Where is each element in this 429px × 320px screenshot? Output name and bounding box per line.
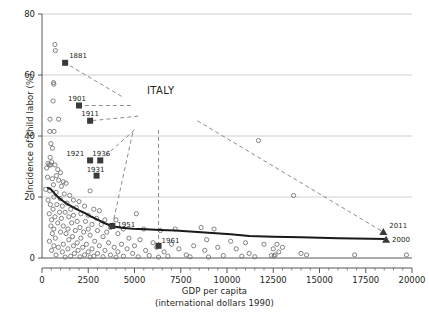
scatter-point xyxy=(177,247,181,251)
scatter-point xyxy=(119,242,123,246)
italy-marker-label-1951: 1951 xyxy=(117,221,135,229)
scatter-point xyxy=(71,213,75,217)
scatter-point xyxy=(53,236,57,240)
scatter-point xyxy=(62,192,66,196)
scatter-point xyxy=(82,230,86,234)
scatter-point xyxy=(54,253,58,257)
x-tick-label-5000: 5000 xyxy=(124,275,146,285)
x-tick-label-20000: 20000 xyxy=(398,275,425,285)
scatter-point xyxy=(58,171,62,175)
scatter-point xyxy=(50,218,54,222)
italy-marker-1911 xyxy=(87,118,93,124)
scatter-point xyxy=(95,228,99,232)
scatter-point xyxy=(304,253,308,257)
scatter-point xyxy=(107,241,111,245)
scatter-point xyxy=(243,241,247,245)
scatter-point xyxy=(52,227,56,231)
scatter-point xyxy=(72,251,76,255)
trend-line xyxy=(48,188,386,239)
scatter-point xyxy=(103,218,107,222)
italy-marker-label-1911: 1911 xyxy=(81,110,99,118)
italy-marker-label-2011: 2011 xyxy=(389,222,407,230)
scatter-point xyxy=(60,204,64,208)
scatter-point xyxy=(57,178,61,182)
scatter-point xyxy=(51,183,55,187)
scatter-point xyxy=(86,250,90,254)
chart-figure: 0204060800250050007500100001250015000175… xyxy=(0,0,429,320)
scatter-point xyxy=(88,189,92,193)
italy-marker-2011 xyxy=(379,228,387,235)
scatter-point xyxy=(112,245,116,249)
scatter-point xyxy=(45,175,49,179)
scatter-point xyxy=(55,203,59,207)
scatter-point xyxy=(52,244,56,248)
scatter-point xyxy=(77,199,81,203)
scatter-point xyxy=(53,49,57,53)
x-axis-label: GDP per capita xyxy=(0,286,429,296)
scatter-point xyxy=(138,238,142,242)
leader-line-6 xyxy=(197,121,383,232)
italy-marker-label-1961: 1961 xyxy=(162,237,180,245)
scatter-point xyxy=(125,247,129,251)
scatter-point xyxy=(66,227,70,231)
scatter-point xyxy=(116,250,120,254)
scatter-point xyxy=(131,251,135,255)
scatter-point xyxy=(50,146,54,150)
y-axis-label: Incidence of child labor (%) xyxy=(25,43,35,223)
scatter-point xyxy=(105,230,109,234)
scatter-point xyxy=(103,248,107,252)
scatter-point xyxy=(134,212,138,216)
x-tick-label-10000: 10000 xyxy=(213,275,240,285)
italy-marker-label-1921: 1921 xyxy=(66,150,84,158)
italy-annotation: ITALY xyxy=(147,85,174,96)
scatter-point xyxy=(203,248,207,252)
scatter-point xyxy=(64,232,68,236)
scatter-point xyxy=(212,227,216,231)
y-tick-label-0: 0 xyxy=(30,253,35,263)
scatter-point xyxy=(82,204,86,208)
scatter-point xyxy=(116,232,120,236)
scatter-point xyxy=(59,216,63,220)
x-tick-label-7500: 7500 xyxy=(170,275,192,285)
scatter-point xyxy=(78,225,82,229)
scatter-point xyxy=(353,253,357,257)
scatter-point xyxy=(262,242,266,246)
scatter-point xyxy=(63,210,67,214)
scatter-point xyxy=(47,239,51,243)
scatter-point xyxy=(271,247,275,251)
scatter-point xyxy=(61,224,65,228)
scatter-point xyxy=(56,221,60,225)
x-tick-label-2500: 2500 xyxy=(77,275,99,285)
scatter-point xyxy=(50,248,54,252)
scatter-point xyxy=(88,233,92,237)
italy-marker-label-2000: 2000 xyxy=(392,236,410,244)
scatter-point xyxy=(216,245,220,249)
scatter-point xyxy=(114,255,118,259)
scatter-point xyxy=(76,248,80,252)
scatter-point xyxy=(45,166,49,170)
scatter-point xyxy=(57,117,61,121)
scatter-point xyxy=(47,212,51,216)
scatter-point xyxy=(132,244,136,248)
x-tick-label-12500: 12500 xyxy=(260,275,287,285)
scatter-point xyxy=(54,174,58,178)
scatter-point xyxy=(93,239,97,243)
scatter-point xyxy=(83,219,87,223)
scatter-point xyxy=(70,221,74,225)
scatter-point xyxy=(221,253,225,257)
scatter-point xyxy=(70,235,74,239)
scatter-point xyxy=(61,242,65,246)
scatter-point xyxy=(90,247,94,251)
scatter-point xyxy=(151,241,155,245)
scatter-point xyxy=(48,117,52,121)
scatter-point xyxy=(101,235,105,239)
scatter-point xyxy=(48,129,52,133)
scatter-point xyxy=(97,244,101,248)
scatter-point xyxy=(73,228,77,232)
scatter-point xyxy=(79,236,83,240)
scatter-point xyxy=(67,215,71,219)
scatter-point xyxy=(234,247,238,251)
scatter-point xyxy=(299,251,303,255)
leader-line-0 xyxy=(65,63,121,97)
scatter-point xyxy=(49,142,53,146)
